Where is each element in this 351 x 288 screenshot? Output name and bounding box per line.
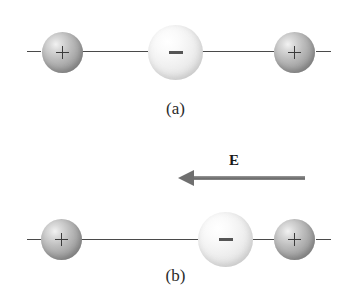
bond-left [82, 51, 148, 52]
negative-charge-center [148, 25, 203, 80]
positive-charge-right [274, 32, 315, 73]
minus-sign-icon [169, 46, 182, 59]
plus-sign-icon [55, 233, 68, 246]
plus-sign-icon [56, 46, 69, 59]
bond-right [253, 239, 274, 240]
negative-charge-center [198, 212, 253, 267]
positive-charge-left [41, 219, 82, 260]
plus-sign-icon [288, 46, 301, 59]
dipole-field-figure: (a) E [0, 0, 351, 288]
field-label-E: E [229, 152, 239, 169]
panel-b-caption: (b) [0, 266, 351, 286]
field-arrow-shaft [192, 176, 305, 180]
axis-stub-left [27, 51, 41, 52]
positive-charge-left [42, 32, 83, 73]
minus-sign-icon [219, 233, 232, 246]
bond-left [81, 239, 198, 240]
axis-stub-left [27, 239, 41, 240]
axis-stub-right [316, 51, 331, 52]
field-arrow-head-icon [178, 170, 194, 186]
plus-sign-icon [288, 233, 301, 246]
panel-a-no-field: (a) [0, 0, 351, 144]
panel-a-caption: (a) [0, 99, 351, 119]
bond-right [202, 51, 274, 52]
positive-charge-right [274, 219, 315, 260]
axis-stub-right [316, 239, 331, 240]
panel-b-with-field: E (b) [0, 144, 351, 288]
